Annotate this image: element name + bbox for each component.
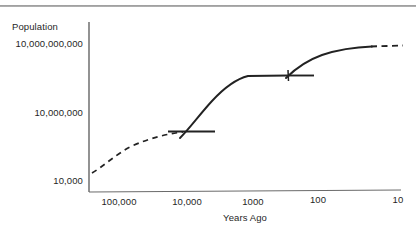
dashed-prehistoric-extrapolation: [92, 132, 183, 173]
x-tick-label-10000: 10,000: [159, 196, 215, 207]
x-tick-label-10: 10: [380, 194, 416, 205]
dashed-future-projection: [371, 46, 403, 47]
population-main-curve-rise: [180, 76, 248, 138]
x-tick-label-100000: 100,000: [88, 196, 150, 207]
x-tick-label-100: 100: [297, 194, 339, 205]
y-tick-label-10000000: 10,000,000: [0, 107, 83, 118]
y-axis-title: Population: [12, 21, 58, 32]
x-tick-label-1000: 1000: [228, 196, 278, 207]
y-tick-label-10000: 10,000: [0, 175, 83, 186]
x-axis-title: Years Ago: [200, 212, 290, 223]
x-axis-line: [89, 190, 401, 192]
y-tick-label-10000000000: 10,000,000,000: [0, 38, 83, 49]
population-modern-rise: [286, 47, 372, 79]
population-plateau-segment: [248, 76, 288, 77]
population-chart-figure: Population 10,000,000,000 10,000,000 10,…: [0, 0, 416, 231]
